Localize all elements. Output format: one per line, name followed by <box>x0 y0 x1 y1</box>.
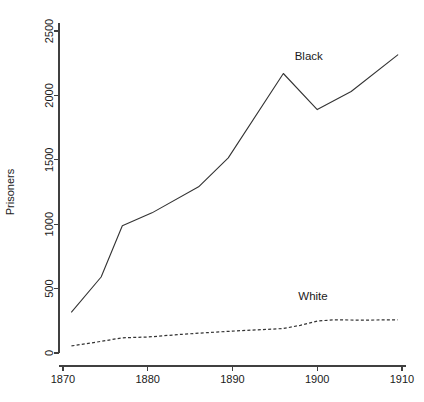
line-chart: 05001000150020002500 1870188018901900191… <box>0 0 424 402</box>
series-line-black <box>71 55 397 312</box>
y-tick-label: 0 <box>43 350 55 356</box>
series-label-black: Black <box>295 50 323 62</box>
series-lines <box>71 55 397 346</box>
y-tick-label: 2500 <box>43 19 55 43</box>
chart-container: 05001000150020002500 1870188018901900191… <box>0 0 424 402</box>
y-tick-label: 1000 <box>43 212 55 236</box>
x-tick-label: 1910 <box>390 373 414 385</box>
y-axis-ticks: 05001000150020002500 <box>43 19 59 356</box>
x-tick-label: 1890 <box>220 373 244 385</box>
series-line-white <box>71 320 397 346</box>
x-tick-label: 1900 <box>305 373 329 385</box>
y-axis-title: Prisoners <box>4 168 16 215</box>
x-axis-ticks: 18701880189019001910 <box>51 366 414 385</box>
y-tick-label: 500 <box>43 279 55 297</box>
x-tick-label: 1870 <box>51 373 75 385</box>
x-tick-label: 1880 <box>136 373 160 385</box>
y-tick-label: 1500 <box>43 148 55 172</box>
series-labels: BlackWhite <box>295 50 328 302</box>
series-label-white: White <box>298 290 327 302</box>
y-tick-label: 2000 <box>43 83 55 107</box>
